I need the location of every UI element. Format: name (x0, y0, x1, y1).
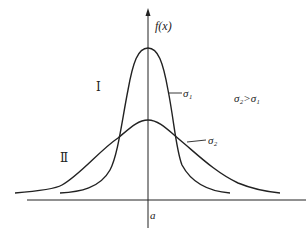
y-axis-label: f(x) (155, 19, 172, 33)
sigma-comparison-annotation: σ₂>σ₁ (234, 92, 260, 104)
y-axis-arrow-icon (146, 8, 151, 16)
sigma2-leader-line (187, 140, 206, 142)
sigma2-label: σ₂ (208, 134, 217, 146)
x-tick-label-a: a (150, 209, 156, 221)
region-label-2: Ⅱ (60, 151, 68, 165)
normal-distribution-diagram: f(x) a Ⅰ Ⅱ σ₁ σ₂ σ₂>σ₁ (0, 0, 306, 236)
sigma1-label: σ₁ (183, 87, 192, 99)
region-label-1: Ⅰ (96, 80, 101, 94)
